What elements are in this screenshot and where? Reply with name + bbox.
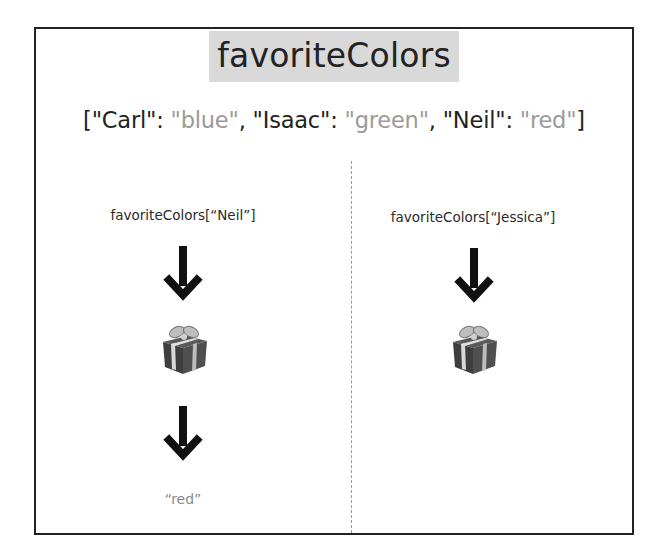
arrow-down-icon <box>454 246 494 304</box>
left-column-lookup-found: favoriteColors[“Neil”] “red” <box>38 29 328 533</box>
arrow-down-icon <box>163 244 203 302</box>
right-column-lookup-missing: favoriteColors[“Jessica”] <box>328 29 618 533</box>
gift-icon <box>157 322 211 376</box>
gift-icon <box>447 322 501 376</box>
lookup-result-value: “red” <box>38 491 328 507</box>
diagram-frame: favoriteColors ["Carl": "blue", "Isaac":… <box>34 27 634 535</box>
arrow-down-icon <box>163 404 203 462</box>
lookup-expression-jessica: favoriteColors[“Jessica”] <box>328 209 618 225</box>
lookup-expression-neil: favoriteColors[“Neil”] <box>38 207 328 223</box>
